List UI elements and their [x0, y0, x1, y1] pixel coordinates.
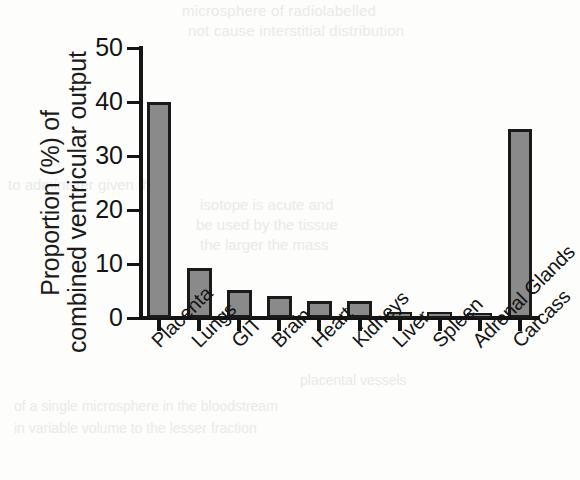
y-tick-label-0: 0	[0, 305, 129, 330]
y-tick-label-20: 20	[0, 197, 129, 222]
bar-placenta	[147, 102, 172, 318]
y-tick-label-50: 50	[0, 35, 129, 60]
y-axis-line	[139, 46, 143, 320]
y-tick-label-30: 30	[0, 143, 129, 168]
y-tick-label-10: 10	[0, 251, 129, 276]
y-tick-label-40: 40	[0, 89, 129, 114]
